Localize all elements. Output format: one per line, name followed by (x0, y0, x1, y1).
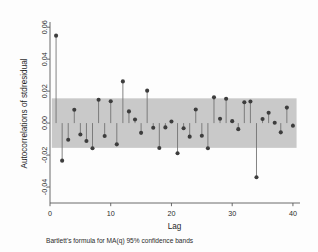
acf-point[interactable] (200, 134, 204, 138)
acf-point[interactable] (115, 142, 119, 146)
acf-point[interactable] (218, 117, 222, 121)
acf-point[interactable] (72, 108, 76, 112)
acf-point[interactable] (182, 126, 186, 130)
acf-point[interactable] (84, 139, 88, 143)
x-tick-label: 30 (228, 209, 236, 218)
confidence-band (52, 98, 297, 148)
acf-point[interactable] (224, 97, 228, 101)
acf-point[interactable] (261, 117, 265, 121)
y-tick-label: 0.02 (40, 84, 49, 98)
acf-figure: -0.04-0.020.000.020.040.06010203040LagAu… (0, 0, 318, 252)
y-tick-label: 0.04 (40, 52, 49, 66)
acf-point[interactable] (248, 99, 252, 103)
y-axis-title: Autocorrelations of stdresidual (20, 58, 29, 168)
acf-point[interactable] (236, 127, 240, 131)
acf-point[interactable] (109, 99, 113, 103)
acf-point[interactable] (133, 118, 137, 122)
acf-point[interactable] (212, 95, 216, 99)
acf-point[interactable] (169, 119, 173, 123)
acf-point[interactable] (151, 126, 155, 130)
acf-point[interactable] (78, 132, 82, 136)
y-tick-label: -0.04 (40, 179, 49, 195)
y-tick-label: -0.02 (40, 147, 49, 163)
acf-point[interactable] (121, 79, 125, 83)
x-axis-title: Lag (168, 222, 182, 231)
acf-point[interactable] (90, 146, 94, 150)
x-tick-label: 40 (289, 209, 297, 218)
acf-point[interactable] (145, 89, 149, 93)
y-tick-label: 0.06 (40, 20, 49, 34)
acf-point[interactable] (139, 131, 143, 135)
acf-point[interactable] (206, 146, 210, 150)
acf-point[interactable] (97, 98, 101, 102)
acf-point[interactable] (267, 111, 271, 115)
acf-point[interactable] (194, 107, 198, 111)
acf-point[interactable] (273, 121, 277, 125)
acf-point[interactable] (103, 134, 107, 138)
acf-point[interactable] (66, 138, 70, 142)
acf-point[interactable] (175, 151, 179, 155)
x-tick-label: 10 (107, 209, 115, 218)
acf-point[interactable] (163, 125, 167, 129)
acf-plot-svg: -0.04-0.020.000.020.040.06010203040LagAu… (0, 0, 318, 252)
acf-point[interactable] (127, 109, 131, 113)
x-tick-label: 0 (48, 209, 52, 218)
chart-caption: Bartlett's formula for MA(q) 95% confide… (46, 237, 194, 245)
acf-point[interactable] (54, 34, 58, 38)
chart-render-group: -0.04-0.020.000.020.040.06010203040LagAu… (20, 20, 301, 245)
acf-point[interactable] (291, 124, 295, 128)
acf-point[interactable] (230, 119, 234, 123)
acf-point[interactable] (285, 106, 289, 110)
acf-point[interactable] (279, 130, 283, 134)
acf-point[interactable] (60, 159, 64, 163)
y-tick-label: 0.00 (40, 116, 49, 130)
acf-point[interactable] (157, 146, 161, 150)
acf-point[interactable] (188, 135, 192, 139)
acf-point[interactable] (254, 175, 258, 179)
x-tick-label: 20 (167, 209, 175, 218)
acf-point[interactable] (242, 100, 246, 104)
